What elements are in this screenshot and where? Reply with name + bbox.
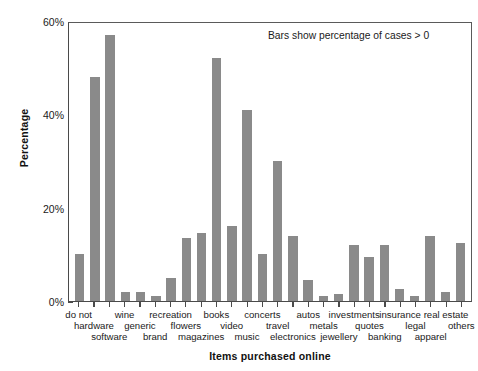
x-axis-label: do not	[65, 309, 92, 320]
x-tick-mark	[170, 302, 171, 307]
bar	[425, 236, 434, 301]
x-axis-label: metals	[309, 320, 337, 331]
x-tick-slot	[117, 302, 132, 308]
x-tick-mark	[323, 302, 324, 307]
bar-slot	[316, 23, 331, 301]
x-tick-slot	[377, 302, 392, 308]
bar-slot	[453, 23, 468, 301]
bar	[197, 233, 206, 301]
x-tick-mark	[354, 302, 355, 307]
bar-slot	[422, 23, 437, 301]
x-tick-mark	[338, 302, 339, 307]
bar-slot	[438, 23, 453, 301]
x-tick-mark	[461, 302, 462, 307]
y-tick-label: 20%	[43, 203, 68, 215]
x-tick-mark	[400, 302, 401, 307]
bar-slot	[87, 23, 102, 301]
x-tick-slot	[301, 302, 316, 308]
bar-slot	[224, 23, 239, 301]
bar-slot	[255, 23, 270, 301]
x-tick-mark	[277, 302, 278, 307]
x-tick-slot	[439, 302, 454, 308]
x-tick-slot	[132, 302, 147, 308]
bar-slot	[361, 23, 376, 301]
bar-slot	[163, 23, 178, 301]
x-axis-label: video	[220, 320, 243, 331]
bar-slot	[285, 23, 300, 301]
bar	[136, 292, 145, 301]
x-axis-label: jewellery	[320, 331, 357, 342]
y-tick-label: 40%	[43, 109, 68, 121]
x-axis-label: concerts	[244, 309, 280, 320]
x-tick-mark	[262, 302, 263, 307]
bar-slot	[346, 23, 361, 301]
bar	[380, 245, 389, 301]
bar	[90, 77, 99, 301]
x-axis-label: brand	[143, 331, 168, 342]
x-axis-label: others	[448, 320, 475, 331]
x-tick-mark	[185, 302, 186, 307]
x-axis-label: legal	[405, 320, 425, 331]
x-tick-slot	[316, 302, 331, 308]
y-tick-label: 0%	[49, 296, 68, 308]
x-axis-label: wine	[115, 309, 135, 320]
bar	[319, 296, 328, 301]
x-tick-mark	[430, 302, 431, 307]
x-axis-label: banking	[368, 331, 402, 342]
bar	[364, 257, 373, 301]
x-tick-mark	[308, 302, 309, 307]
x-tick-slot	[86, 302, 101, 308]
bar-slot	[377, 23, 392, 301]
x-tick-slot	[209, 302, 224, 308]
x-axis-label: apparel	[415, 331, 447, 342]
x-tick-mark	[216, 302, 217, 307]
chart-annotation: Bars show percentage of cases > 0	[268, 30, 429, 41]
x-tick-slot	[331, 302, 346, 308]
bar	[441, 292, 450, 301]
bar-slot	[133, 23, 148, 301]
x-tick-slot	[224, 302, 239, 308]
x-axis-label: hardware	[74, 320, 114, 331]
bar	[212, 58, 221, 301]
x-axis-label: books	[204, 309, 230, 320]
x-tick-slot	[71, 302, 86, 308]
y-axis: Percentage 0%20%40%60%	[0, 0, 68, 302]
y-tick-label: 60%	[43, 16, 68, 28]
x-tick-mark	[292, 302, 293, 307]
bar	[273, 161, 282, 301]
bar	[456, 243, 465, 301]
x-axis-label: magazines	[178, 331, 224, 342]
bar-slot	[148, 23, 163, 301]
x-tick-slot	[194, 302, 209, 308]
bar	[166, 278, 175, 301]
x-tick-slot	[347, 302, 362, 308]
x-axis-label: electronics	[270, 331, 316, 342]
x-tick-slot	[163, 302, 178, 308]
x-tick-slot	[423, 302, 438, 308]
plot-area	[68, 22, 472, 302]
bar-slot	[179, 23, 194, 301]
x-tick-slot	[102, 302, 117, 308]
x-tick-slot	[408, 302, 423, 308]
x-tick-group	[68, 302, 472, 308]
bar	[105, 35, 114, 301]
bar-chart: Percentage 0%20%40%60% Bars show percent…	[0, 0, 478, 371]
bar-slot	[209, 23, 224, 301]
x-tick-mark	[369, 302, 370, 307]
bars-container	[69, 23, 471, 301]
x-tick-mark	[247, 302, 248, 307]
bar-slot	[407, 23, 422, 301]
bar-slot	[331, 23, 346, 301]
x-tick-mark	[78, 302, 79, 307]
x-tick-mark	[415, 302, 416, 307]
x-axis-label: insurance	[379, 309, 421, 320]
x-tick-slot	[362, 302, 377, 308]
x-tick-mark	[231, 302, 232, 307]
x-axis-label: investments	[329, 309, 380, 320]
x-tick-slot	[270, 302, 285, 308]
x-tick-slot	[454, 302, 469, 308]
x-tick-mark	[109, 302, 110, 307]
bar-slot	[118, 23, 133, 301]
x-axis-title: Items purchased online	[68, 350, 472, 362]
x-axis-label: generic	[124, 320, 155, 331]
